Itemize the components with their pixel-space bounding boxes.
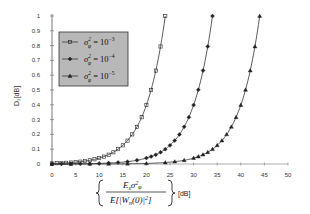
x-tick-label: 45 (261, 172, 268, 178)
x-tick-label: 30 (190, 172, 197, 178)
x-tick-label: 50 (285, 172, 292, 178)
x-tick-label: 15 (119, 172, 126, 178)
y-tick-label: 0 (37, 161, 41, 167)
x-label-unit: [dB] (178, 190, 191, 198)
x-tick-label: 35 (214, 172, 221, 178)
x-tick-label: 40 (237, 172, 244, 178)
y-tick-label: 0.9 (32, 28, 41, 34)
y-tick-label: 0.7 (32, 57, 41, 63)
right-brace-icon (168, 180, 175, 206)
x-tick-label: 20 (143, 172, 150, 178)
y-tick-label: 0.8 (32, 43, 41, 49)
y-tick-label: 0.3 (32, 117, 41, 123)
y-axis-label: D₂[dB] (13, 86, 21, 106)
y-tick-label: 0.6 (32, 72, 41, 78)
legend: σ2φ = 10−3σ2φ = 10−4σ2φ = 10−5 (59, 32, 128, 86)
x-label-denominator: E[|Wn(0)|2] (109, 195, 152, 206)
y-tick-label: 0.4 (32, 102, 41, 108)
x-axis-label: Esσ2φ E[|Wn(0)|2] [dB] (96, 180, 191, 206)
y-tick-label: 1 (37, 13, 41, 19)
x-tick-label: 0 (50, 172, 54, 178)
y-tick-label: 0.1 (32, 146, 41, 152)
y-tick-label: 0.2 (32, 131, 41, 137)
x-tick-label: 5 (74, 172, 78, 178)
x-tick-label: 10 (96, 172, 103, 178)
x-tick-label: 25 (167, 172, 174, 178)
left-brace-icon (96, 180, 103, 206)
chart-svg: 00.10.20.30.40.50.60.70.80.9105101520253… (0, 0, 310, 214)
x-label-numerator: Esσ2φ (122, 180, 142, 191)
y-tick-label: 0.5 (32, 87, 41, 93)
